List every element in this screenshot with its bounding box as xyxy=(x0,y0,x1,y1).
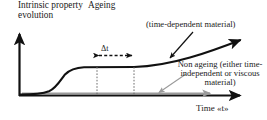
x-axis-title: Time «t» xyxy=(196,104,228,113)
time-dependent-leader-arrow xyxy=(170,32,193,58)
time-dependent-material-label: (time-dependent material) xyxy=(146,20,235,29)
delta-t-label: Δt xyxy=(101,45,109,54)
non-ageing-material-label: Non ageing (either time-independent or v… xyxy=(177,60,263,87)
y-axis-title: Intrinsic property evolution xyxy=(18,1,90,21)
ageing-label: Ageing xyxy=(88,1,115,11)
figure-container: Intrinsic property evolution Ageing (tim… xyxy=(0,0,267,120)
